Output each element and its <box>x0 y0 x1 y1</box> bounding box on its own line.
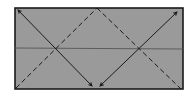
origami-diagram <box>0 0 189 94</box>
